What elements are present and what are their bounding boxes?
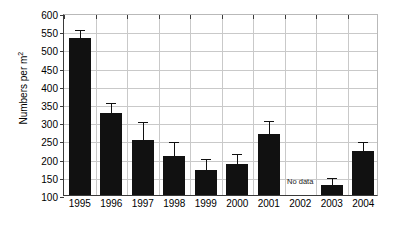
y-axis-title-superscript: 2 <box>17 52 24 56</box>
bar <box>195 170 217 195</box>
x-axis-tick-label: 1996 <box>100 198 122 209</box>
x-gridline <box>285 15 286 195</box>
error-bar-line <box>363 142 364 153</box>
y-axis-tick-label: 350 <box>41 101 58 112</box>
y-gridline <box>64 88 377 89</box>
y-axis-title: Numbers per m2 <box>17 3 29 173</box>
plot-area: 1001502002503003504004505005506001995199… <box>63 14 378 196</box>
error-bar-line <box>237 154 238 166</box>
y-axis-tick <box>60 70 64 71</box>
x-axis-tick-label: 1998 <box>163 198 185 209</box>
x-gridline <box>190 15 191 195</box>
x-axis-tick-label: 1997 <box>132 198 154 209</box>
y-axis-tick-label: 200 <box>41 155 58 166</box>
error-bar-line <box>80 30 81 41</box>
no-data-annotation: No data <box>287 177 313 186</box>
bar <box>132 140 154 195</box>
y-axis-tick <box>60 88 64 89</box>
error-bar-cap <box>169 142 179 143</box>
error-bar-line <box>174 142 175 158</box>
y-axis-tick <box>60 179 64 180</box>
chart-figure: Numbers per m2 1001502002503003504004505… <box>0 0 393 228</box>
x-axis-tick <box>190 15 191 19</box>
x-axis-tick-label: 2001 <box>258 198 280 209</box>
y-axis-tick-label: 450 <box>41 64 58 75</box>
y-axis-tick-label: 300 <box>41 119 58 130</box>
x-axis-tick-label: 2004 <box>352 198 374 209</box>
bar <box>226 164 248 195</box>
y-axis-tick <box>60 161 64 162</box>
x-gridline <box>253 15 254 195</box>
y-gridline <box>64 51 377 52</box>
x-axis-tick <box>222 15 223 19</box>
bar <box>69 38 91 195</box>
x-axis-tick <box>159 15 160 19</box>
x-axis-tick <box>64 15 65 19</box>
x-axis-tick-label: 2002 <box>289 198 311 209</box>
error-bar-cap <box>106 103 116 104</box>
y-gridline <box>64 70 377 71</box>
x-gridline <box>348 15 349 195</box>
x-axis-tick <box>348 15 349 19</box>
x-axis-tick-label: 2000 <box>226 198 248 209</box>
y-axis-tick <box>60 33 64 34</box>
x-axis-tick-label: 1995 <box>69 198 91 209</box>
error-bar-cap <box>201 159 211 160</box>
y-axis-tick <box>60 124 64 125</box>
bar <box>258 134 280 195</box>
y-axis-tick-label: 600 <box>41 10 58 21</box>
error-bar-cap <box>138 122 148 123</box>
x-axis-tick <box>285 15 286 19</box>
y-axis-tick-label: 400 <box>41 82 58 93</box>
error-bar-line <box>206 159 207 172</box>
error-bar-cap <box>358 142 368 143</box>
error-bar-cap <box>327 178 337 179</box>
y-axis-tick-label: 150 <box>41 173 58 184</box>
error-bar-line <box>111 103 112 115</box>
y-axis-tick <box>60 197 64 198</box>
y-axis-tick-label: 250 <box>41 137 58 148</box>
y-axis-tick-label: 500 <box>41 46 58 57</box>
error-bar-cap <box>264 121 274 122</box>
x-gridline <box>159 15 160 195</box>
error-bar-cap <box>75 30 85 31</box>
bar <box>352 151 374 195</box>
bar <box>100 113 122 195</box>
bar <box>163 156 185 195</box>
y-axis-tick <box>60 106 64 107</box>
y-axis-tick <box>60 142 64 143</box>
error-bar-line <box>269 121 270 136</box>
x-gridline <box>127 15 128 195</box>
x-gridline <box>96 15 97 195</box>
y-gridline <box>64 33 377 34</box>
x-axis-tick-label: 2003 <box>321 198 343 209</box>
y-axis-title-text: Numbers per m <box>18 56 29 125</box>
x-gridline <box>222 15 223 195</box>
y-axis-tick-label: 100 <box>41 192 58 203</box>
x-axis-tick <box>316 15 317 19</box>
error-bar-line <box>332 178 333 187</box>
x-axis-tick-label: 1999 <box>195 198 217 209</box>
y-axis-tick <box>60 51 64 52</box>
error-bar-cap <box>232 154 242 155</box>
x-axis-tick <box>253 15 254 19</box>
y-axis-tick-label: 550 <box>41 28 58 39</box>
x-axis-tick <box>96 15 97 19</box>
error-bar-line <box>143 122 144 142</box>
x-gridline <box>316 15 317 195</box>
x-axis-tick <box>127 15 128 19</box>
